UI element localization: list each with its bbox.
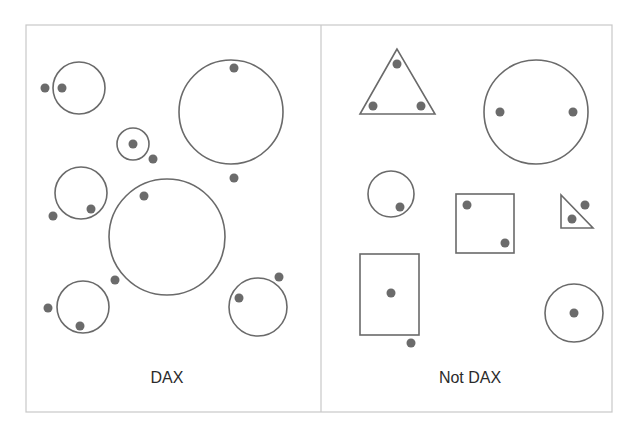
point-dot (41, 84, 50, 93)
point-dot (111, 276, 120, 285)
point-dot (369, 102, 378, 111)
point-dot (463, 201, 472, 210)
point-dot (58, 84, 67, 93)
point-dot (149, 155, 158, 164)
polygon-shape (561, 195, 593, 228)
point-dot (581, 201, 590, 210)
point-dot (396, 203, 405, 212)
point-dot (570, 309, 579, 318)
point-dot (569, 108, 578, 117)
point-dot (417, 102, 426, 111)
panel-not-dax (360, 49, 603, 348)
circle-shape (229, 278, 287, 336)
point-dot (44, 304, 53, 313)
dax-diagram (0, 0, 638, 429)
circle-shape (368, 171, 414, 217)
point-dot (496, 108, 505, 117)
circle-shape (179, 60, 283, 164)
panel-dax (41, 60, 288, 336)
panel-label-dax: DAX (67, 368, 267, 388)
circle-shape (109, 179, 225, 295)
point-dot (275, 273, 284, 282)
point-dot (387, 289, 396, 298)
panel-label-not-dax: Not DAX (370, 368, 570, 388)
point-dot (49, 212, 58, 221)
point-dot (129, 140, 138, 149)
point-dot (87, 205, 96, 214)
diagram-frame (26, 25, 612, 412)
point-dot (407, 339, 416, 348)
point-dot (501, 239, 510, 248)
point-dot (230, 64, 239, 73)
point-dot (568, 215, 577, 224)
point-dot (235, 294, 244, 303)
point-dot (230, 174, 239, 183)
point-dot (76, 322, 85, 331)
circle-shape (55, 167, 107, 219)
point-dot (140, 192, 149, 201)
point-dot (393, 60, 402, 69)
